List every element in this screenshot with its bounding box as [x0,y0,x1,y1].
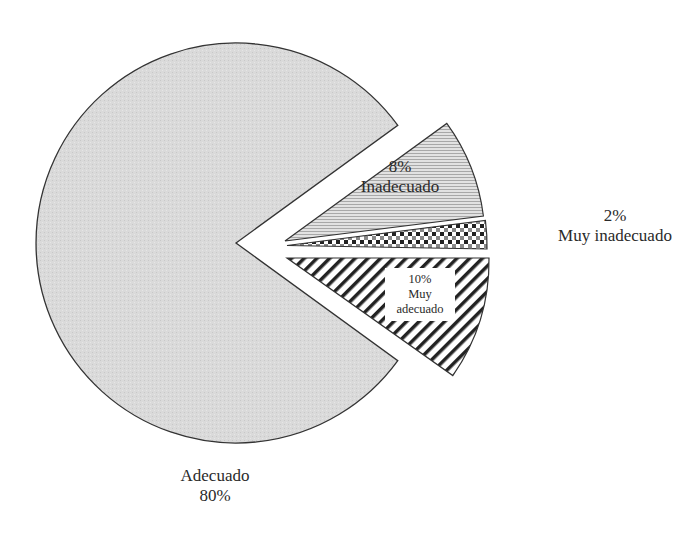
label-adecuado-name: Adecuado [140,466,290,486]
label-muy-adecuado-name1: Muy [385,287,455,302]
label-inadecuado-name: Inadecuado [325,177,475,197]
label-inadecuado-pct: 8% [325,157,475,177]
label-muy-inadecuado-name: Muy inadecuado [540,226,684,246]
label-adecuado-pct: 80% [140,486,290,506]
label-muy-adecuado: 10% Muy adecuado [385,268,455,321]
label-muy-inadecuado-pct: 2% [540,206,684,226]
label-adecuado: Adecuado 80% [140,466,290,507]
pie-chart [0,0,684,545]
label-inadecuado: 8% Inadecuado [325,157,475,198]
label-muy-adecuado-pct: 10% [385,272,455,287]
label-muy-inadecuado: 2% Muy inadecuado [540,206,684,247]
label-muy-adecuado-name2: adecuado [385,302,455,317]
